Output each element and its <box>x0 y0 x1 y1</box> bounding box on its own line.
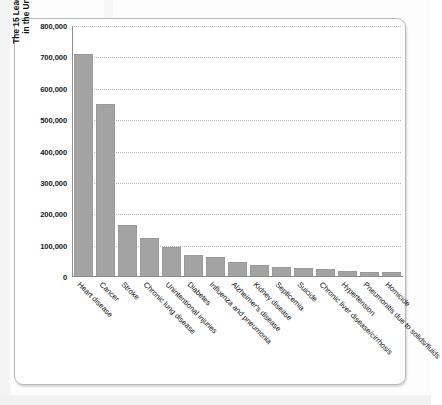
bar-series <box>74 26 401 277</box>
bar <box>118 225 137 277</box>
y-axis-tick-label: 600,000 <box>0 84 67 93</box>
bar-chart: The 15 Leading Causes of Death in the Un… <box>14 18 406 385</box>
scan-tint-bottom <box>0 395 431 405</box>
y-axis-tick-label: 200,000 <box>0 210 67 219</box>
y-axis-line <box>72 26 73 277</box>
bar <box>184 255 203 277</box>
y-axis-tick-label: 300,000 <box>0 178 67 187</box>
bar <box>206 257 225 277</box>
x-axis-tick-label: Stroke <box>119 280 141 302</box>
x-axis-tick-labels: Heart diseaseCancerStrokeChronic lung di… <box>74 280 403 380</box>
y-axis-tick-label: 400,000 <box>0 147 67 156</box>
bar <box>162 247 181 277</box>
bar <box>96 104 115 278</box>
y-axis-tick-label: 0 <box>0 273 67 282</box>
bar <box>140 238 159 277</box>
y-axis-tick-label: 500,000 <box>0 116 67 125</box>
x-axis-line <box>72 276 403 277</box>
y-axis-tick-label: 100,000 <box>0 241 67 250</box>
y-axis-tick-label: 800,000 <box>0 22 67 31</box>
y-axis-tick-label: 700,000 <box>0 53 67 62</box>
bar <box>74 54 93 277</box>
bar <box>228 262 247 277</box>
plot-area: 800,000700,000600,000500,000400,000300,0… <box>72 26 401 277</box>
